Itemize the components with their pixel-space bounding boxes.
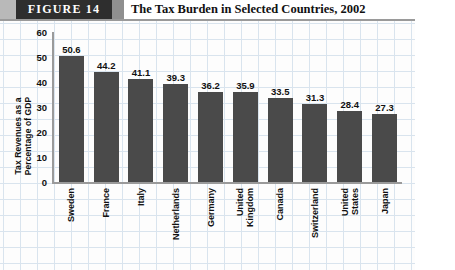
y-axis-title-line-1: Tax Revenues as a [13,66,23,206]
category-label-line: United [340,188,350,216]
bar [59,56,84,183]
bar-value-label: 33.5 [271,86,290,97]
category-label: Canada [275,188,285,221]
plot-frame: 0102030405060 50.644.241.139.336.235.933… [52,32,402,184]
bar [94,72,119,183]
figure-number-label: FIGURE 14 [16,0,112,19]
category-label-line: Netherlands [171,188,181,240]
bar-slot: 33.5 [263,32,298,182]
category-label: UnitedStates [340,188,360,216]
category-label-line: Sweden [66,188,76,222]
bar-slot: 50.6 [54,32,89,182]
category-label: Italy [136,188,146,206]
category-label-line: States [350,188,360,216]
category-label: Netherlands [171,188,181,240]
bar [128,79,153,182]
bar-value-label: 41.1 [132,67,151,78]
y-tick-50: 50 [25,52,47,63]
category-label: Sweden [66,188,76,222]
figure-header: FIGURE 14 The Tax Burden in Selected Cou… [0,0,455,19]
category-label-line: Japan [380,188,390,214]
bar-slot: 35.9 [228,32,263,182]
y-tick-60: 60 [25,27,47,38]
category-label: Japan [380,188,390,214]
bar-value-label: 50.6 [62,44,81,55]
y-tick-0: 0 [25,177,47,188]
category-label: Germany [206,188,216,227]
y-tick-20: 20 [25,127,47,138]
bar-slot: 39.3 [158,32,193,182]
x-axis-category-labels: SwedenFranceItalyNetherlandsGermanyUnite… [54,188,402,266]
chart-plot-area: Tax Revenues as a Percentage of GDP 0102… [0,21,415,270]
bar [233,92,258,182]
category-slot: UnitedStates [332,188,367,266]
category-label-line: France [101,188,111,218]
y-tick-30: 30 [25,102,47,113]
category-slot: UnitedKingdom [228,188,263,266]
bar-slot: 41.1 [124,32,159,182]
bar [302,104,327,182]
category-slot: Italy [124,188,159,266]
category-label-line: Kingdom [245,188,255,227]
bar-slot: 27.3 [367,32,402,182]
bar [268,98,293,182]
bar-value-label: 36.2 [201,80,220,91]
figure-tab-tail [112,0,124,19]
category-slot: Canada [263,188,298,266]
figure-title: The Tax Burden in Selected Countries, 20… [131,0,365,19]
category-slot: Switzerland [298,188,333,266]
y-tick-40: 40 [25,77,47,88]
bar-value-label: 35.9 [236,80,255,91]
bar-slot: 28.4 [332,32,367,182]
category-label-line: Switzerland [310,188,320,238]
bar-value-label: 39.3 [167,72,186,83]
bar-slot: 44.2 [89,32,124,182]
category-slot: Germany [193,188,228,266]
bar-value-label: 44.2 [97,60,116,71]
header-left-cap [0,0,16,19]
bar [337,111,362,182]
bar-value-label: 28.4 [341,99,360,110]
bar-value-label: 27.3 [375,102,394,113]
x-axis-line [52,182,402,184]
figure-container: FIGURE 14 The Tax Burden in Selected Cou… [0,0,455,270]
bar [163,84,188,182]
category-slot: Japan [367,188,402,266]
bar [198,92,223,183]
bar-value-label: 31.3 [306,92,325,103]
category-label: France [101,188,111,218]
category-slot: France [89,188,124,266]
bar-slot: 31.3 [298,32,333,182]
category-label: Switzerland [310,188,320,238]
category-slot: Sweden [54,188,89,266]
bar-series: 50.644.241.139.336.235.933.531.328.427.3 [54,32,402,182]
category-slot: Netherlands [158,188,193,266]
y-tick-10: 10 [25,152,47,163]
category-label-line: Italy [136,188,146,206]
category-label-line: Germany [206,188,216,227]
category-label: UnitedKingdom [235,188,255,227]
bar [372,114,397,182]
category-label-line: United [235,188,245,227]
category-label-line: Canada [275,188,285,221]
source-margin: SOURCE: Organization for Economic Cooper… [415,0,455,270]
bar-slot: 36.2 [193,32,228,182]
